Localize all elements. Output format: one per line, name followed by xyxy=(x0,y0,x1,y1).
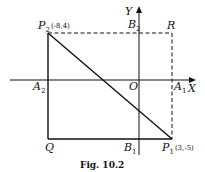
figure-diagram: Y X O P2(-8,4) B2 R A2 A1 Q B1 P1(3,-5) … xyxy=(0,0,205,172)
label-a1: A1 xyxy=(173,80,186,95)
figure-caption: Fig. 10.2 xyxy=(80,160,124,170)
segment-p2-p1 xyxy=(48,33,172,139)
label-r: R xyxy=(166,19,175,32)
label-y-axis: Y xyxy=(125,5,134,18)
y-axis-arrow-icon xyxy=(136,6,142,13)
label-p2: P2(-8,4) xyxy=(37,19,70,34)
label-q: Q xyxy=(45,141,54,154)
label-b1: B1 xyxy=(123,141,137,156)
label-p1: P1(3,-5) xyxy=(161,141,194,156)
label-origin: O xyxy=(129,80,138,93)
label-x-axis: X xyxy=(187,82,197,95)
label-a2: A2 xyxy=(32,80,45,95)
